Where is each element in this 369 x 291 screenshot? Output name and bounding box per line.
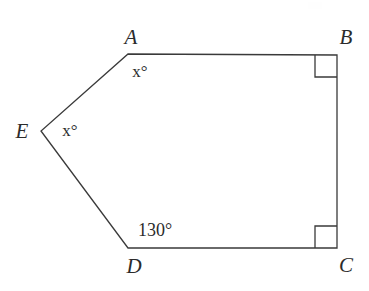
angle-label-e: x° <box>62 122 77 139</box>
angle-label-a: x° <box>132 63 147 80</box>
angle-label-d: 130° <box>138 221 172 239</box>
vertex-label-c: C <box>339 255 353 276</box>
pentagon-outline <box>41 54 337 248</box>
geometry-figure: A B C D E x° x° 130° <box>0 0 369 291</box>
vertex-label-a: A <box>125 27 138 48</box>
vertex-label-d: D <box>126 256 141 277</box>
vertex-label-b: B <box>340 27 353 48</box>
right-angle-marker-b <box>315 55 337 77</box>
vertex-label-e: E <box>16 121 29 142</box>
polygon-drawing <box>0 0 369 291</box>
right-angle-marker-c <box>315 226 337 248</box>
